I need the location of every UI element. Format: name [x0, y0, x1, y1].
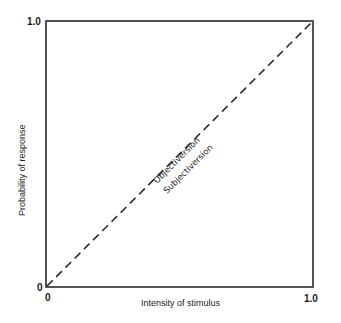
x-tick-max: 1.0 [304, 293, 318, 304]
chart: 1.0 0 0 1.0 Intensity of stimulus Probab… [0, 0, 341, 323]
x-axis-label: Intensity of stimulus [141, 298, 221, 308]
y-tick-max: 1.0 [27, 16, 41, 27]
x-tick-min: 0 [45, 292, 51, 303]
y-tick-min: 0 [37, 282, 43, 293]
y-axis-label: Probability of response [17, 124, 27, 216]
